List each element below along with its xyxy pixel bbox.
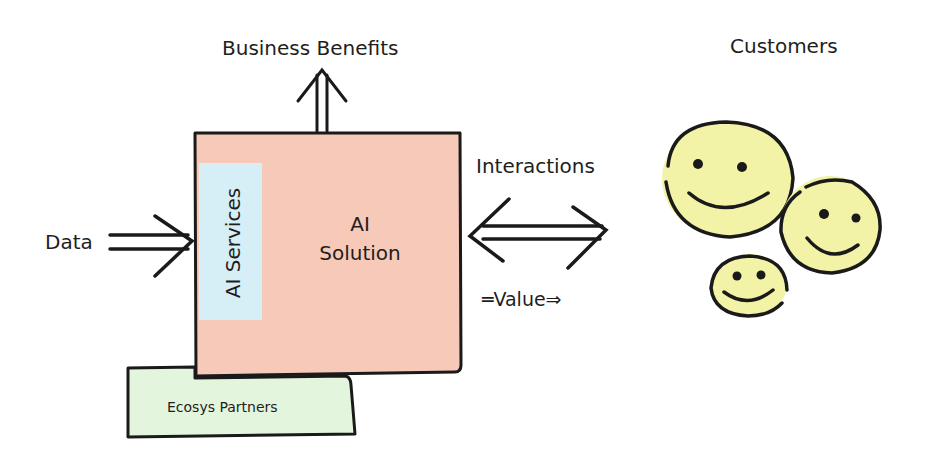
ai-solution-label-line1: AI bbox=[300, 214, 420, 234]
customers-label: Customers bbox=[730, 36, 838, 56]
interactions-arrow-icon bbox=[470, 199, 606, 268]
business-benefits-arrow-icon bbox=[298, 70, 346, 131]
customer-face-large-icon bbox=[662, 121, 794, 237]
data-arrow-icon bbox=[110, 216, 192, 276]
diagram-canvas bbox=[0, 0, 925, 472]
data-label: Data bbox=[45, 232, 93, 252]
ai-services-label: AI Services bbox=[221, 187, 245, 297]
ai-services-label-container: AI Services bbox=[205, 165, 261, 320]
value-label: ═Value⇒ bbox=[482, 290, 562, 309]
ecosys-partners-label: Ecosys Partners bbox=[167, 400, 278, 414]
customer-face-medium-icon bbox=[781, 176, 880, 274]
interactions-label: Interactions bbox=[476, 156, 595, 176]
ai-solution-label-line2: Solution bbox=[300, 243, 420, 263]
business-benefits-label: Business Benefits bbox=[222, 38, 398, 58]
customer-face-small-icon bbox=[711, 254, 787, 316]
